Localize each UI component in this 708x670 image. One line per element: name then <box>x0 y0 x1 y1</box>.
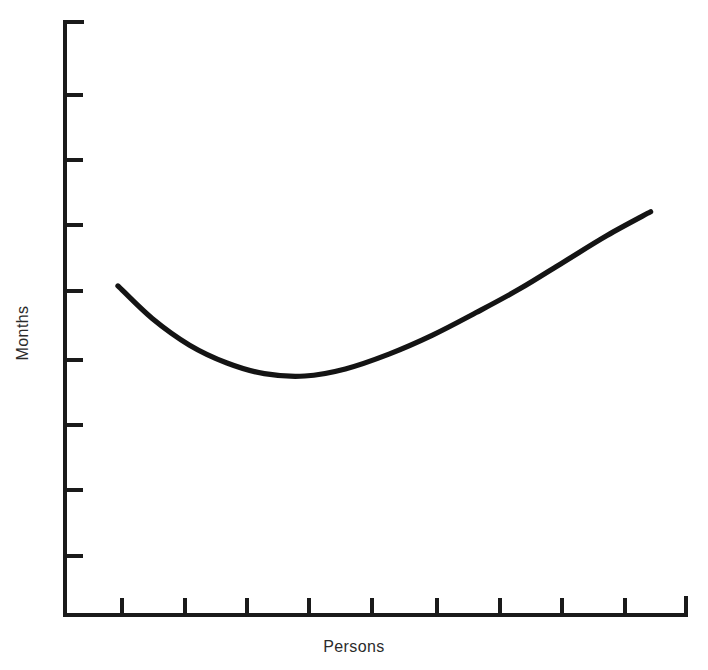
y-axis-label: Months <box>14 306 32 361</box>
chart-figure: Months Persons <box>0 0 708 670</box>
y-axis-ticks <box>65 95 83 556</box>
y-axis-label-container: Months <box>8 268 38 398</box>
x-axis-label: Persons <box>0 637 708 657</box>
x-axis-ticks <box>122 598 625 615</box>
chart-plot-area <box>0 0 708 670</box>
data-series-curve <box>118 212 651 377</box>
